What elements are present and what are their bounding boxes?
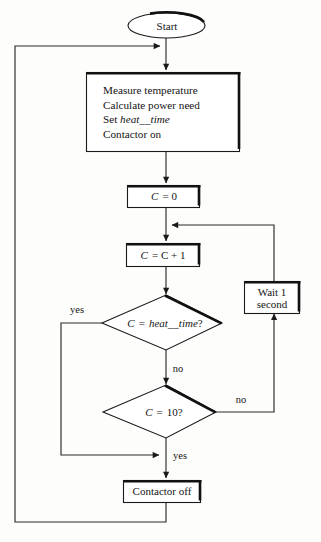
- node-increment[interactable]: C= C + 1: [127, 244, 201, 267]
- edge-label-ten-yes: yes: [173, 450, 187, 461]
- node-start[interactable]: Start: [128, 12, 205, 38]
- wait-line-1: Wait 1: [258, 286, 287, 298]
- init-counter-label: C= 0: [151, 190, 177, 202]
- measure-line-3-variable: heat__time: [120, 113, 170, 125]
- wait-line-2: second: [257, 298, 288, 310]
- increment-label: C= C + 1: [141, 249, 186, 261]
- node-init-counter[interactable]: C= 0: [128, 186, 201, 208]
- init-counter-expr: = 0: [162, 190, 177, 202]
- heat-time-op: =: [139, 317, 145, 329]
- measure-line-3: Set heat__time: [103, 113, 170, 125]
- edge-label-ten-no: no: [236, 394, 247, 405]
- node-contactor-off[interactable]: Contactor off: [124, 481, 202, 503]
- measure-line-2: Calculate power need: [103, 99, 200, 111]
- increment-expr: = C + 1: [152, 249, 186, 261]
- measure-line-4: Contactor on: [103, 128, 162, 140]
- node-decision-ten[interactable]: C=10?: [103, 385, 216, 438]
- contactor-off-label: Contactor off: [133, 485, 192, 497]
- ten-var: C: [145, 406, 153, 418]
- node-decision-heat-time[interactable]: C=heat__time?: [102, 295, 222, 350]
- increment-var: C: [141, 249, 149, 261]
- heat-time-label: C=heat__time?: [127, 317, 202, 329]
- heat-time-var: C: [127, 317, 135, 329]
- init-counter-var: C: [151, 190, 159, 202]
- flowchart-canvas: Start Measure temperature Calculate powe…: [0, 0, 321, 542]
- ten-op: =: [157, 406, 163, 418]
- edge-label-heattime-no: no: [173, 363, 184, 374]
- measure-line-3-prefix: Set: [103, 113, 120, 125]
- edge-label-heattime-yes: yes: [70, 304, 84, 315]
- start-label: Start: [157, 20, 178, 32]
- flowchart-svg: Start Measure temperature Calculate powe…: [0, 0, 321, 542]
- node-measure-process[interactable]: Measure temperature Calculate power need…: [87, 73, 241, 152]
- measure-line-1: Measure temperature: [103, 84, 198, 96]
- edge-heattime-yes-to-off: [61, 323, 159, 455]
- node-wait[interactable]: Wait 1 second: [245, 282, 301, 314]
- heat-time-operand: heat__time: [149, 317, 198, 329]
- heat-time-suffix: ?: [198, 317, 203, 329]
- ten-operand: 10?: [167, 406, 183, 418]
